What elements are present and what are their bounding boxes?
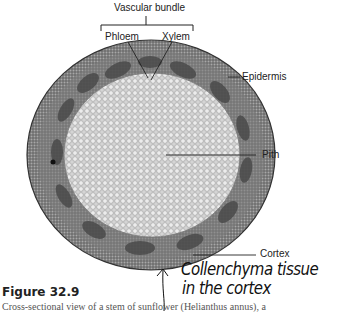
label-vascular-bundle: Vascular bundle	[114, 3, 185, 13]
vascular-bundle-bracket	[101, 16, 193, 31]
label-xylem: Xylem	[162, 32, 190, 42]
label-phloem: Phloem	[105, 32, 139, 42]
label-epidermis: Epidermis	[242, 72, 286, 82]
label-cortex: Cortex	[260, 249, 289, 259]
handwritten-note-line2: in the cortex	[182, 280, 271, 297]
figure-number: Figure 32.9	[2, 285, 79, 299]
figure-caption: Cross-sectional view of a stem of sunflo…	[2, 301, 266, 312]
label-pith: Pith	[262, 150, 279, 160]
handwritten-note-line1: Collenchyma tissue	[181, 261, 318, 278]
